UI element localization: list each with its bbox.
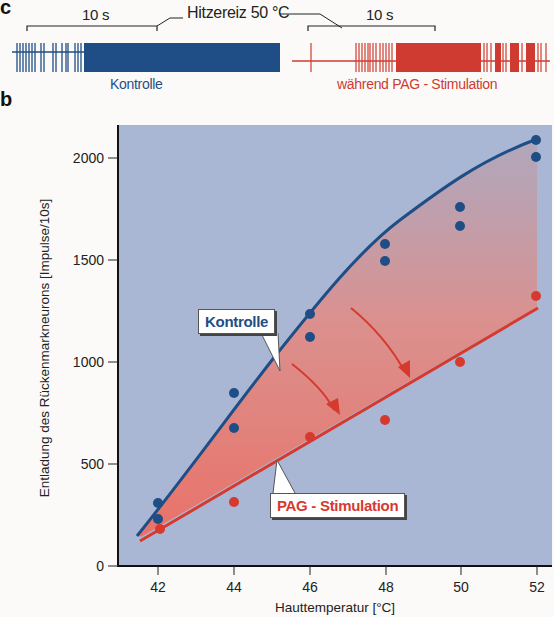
y-tick-500: 500 <box>81 456 105 472</box>
x-tick-48: 48 <box>378 579 394 595</box>
figure-canvas: 0 500 1000 1500 2000 42 44 46 48 50 52 H… <box>0 0 554 617</box>
y-tick-0: 0 <box>96 558 104 574</box>
y-axis-title: Entladung des Rückenmarkneurons [Impulse… <box>37 199 52 498</box>
x-ticks <box>158 566 537 575</box>
bracket-control <box>27 26 157 31</box>
kontrolle-callout: Kontrolle <box>198 309 275 334</box>
x-tick-44: 44 <box>226 579 242 595</box>
x-tick-46: 46 <box>302 579 318 595</box>
x-tick-52: 52 <box>529 579 545 595</box>
spike-train-pag <box>280 14 550 72</box>
bracket-pag <box>308 26 435 31</box>
y-tick-1000: 1000 <box>73 354 104 370</box>
y-tick-1500: 1500 <box>73 252 104 268</box>
pag-stimulation-callout: PAG - Stimulation <box>270 493 405 518</box>
leader-line-left <box>157 18 183 26</box>
y-tick-2000: 2000 <box>73 150 104 166</box>
x-tick-42: 42 <box>150 579 166 595</box>
y-ticks <box>108 158 118 566</box>
spike-train-control <box>12 18 280 72</box>
x-tick-50: 50 <box>453 579 469 595</box>
x-axis-title: Hauttemperatur [°C] <box>275 600 395 615</box>
